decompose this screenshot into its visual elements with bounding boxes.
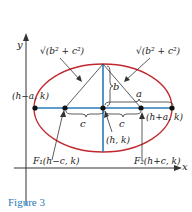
label-sqrt-left: √(b² + c²): [40, 47, 84, 56]
y-axis-label: y: [17, 40, 23, 50]
center-point: [100, 105, 105, 110]
brace-c-right: [105, 111, 141, 117]
vertex-right-point: [169, 105, 174, 110]
brace-c-left: [66, 111, 104, 117]
focus2-point: [138, 105, 143, 110]
focus1-point: [62, 105, 67, 110]
label-a: a: [136, 89, 142, 99]
label-focus2: F₂(h+c, k): [134, 157, 180, 166]
label-right-vertex: (h+a, k): [146, 113, 183, 122]
label-sqrt-right: √(b² + c²): [136, 47, 180, 56]
focal-line-left: [65, 64, 103, 108]
label-left-vertex: (h−a, k): [12, 92, 49, 101]
ellipse-diagram: [0, 0, 192, 212]
label-focus1: F₁(h−c, k): [33, 157, 79, 166]
label-b: b: [113, 82, 119, 92]
brace-a: [105, 99, 173, 105]
y-axis-arrow-icon: [23, 33, 29, 41]
focal-line-right: [103, 64, 141, 108]
label-c-right: c: [119, 119, 125, 129]
figure-caption: Figure 3: [8, 196, 45, 208]
label-center: (h, k): [106, 136, 130, 145]
vertex-left-point: [32, 105, 37, 110]
label-c-left: c: [80, 119, 86, 129]
x-axis-label: x: [182, 162, 188, 172]
